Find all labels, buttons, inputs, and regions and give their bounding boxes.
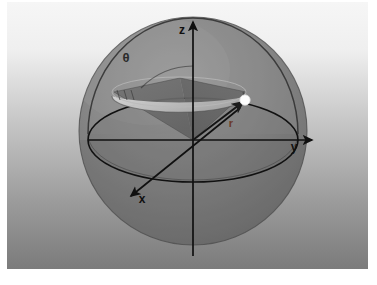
surface-point-marker [240,95,250,105]
y-axis-label: y [291,140,298,154]
theta-label: θ [122,50,129,65]
x-axis-label: x [139,192,146,206]
spherical-coordinate-diagram: z θ y r x [0,0,377,285]
figure-root: z θ y r x [0,0,377,285]
r-label: r [229,117,234,129]
z-axis-label: z [179,23,185,37]
